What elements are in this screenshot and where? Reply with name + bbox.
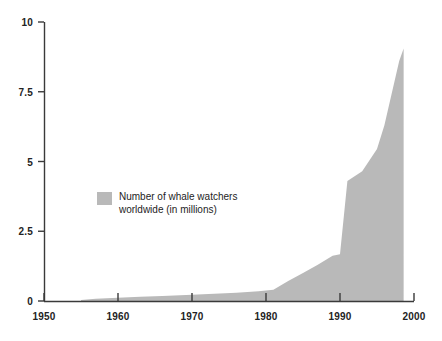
y-axis-tick-label: 2.5 [0,226,33,237]
legend-label: Number of whale watchers worldwide (in m… [119,191,237,216]
x-axis-tick-label: 1970 [180,311,203,322]
y-axis-tick-label: 7.5 [0,86,33,97]
x-axis-tick-label: 1960 [106,311,129,322]
x-axis-tick-label: 1980 [254,311,277,322]
x-axis-tick-label: 1990 [328,311,351,322]
y-axis-ticks [38,22,44,301]
y-axis-tick-label: 5 [0,156,33,167]
x-axis-tick-label: 2000 [402,311,425,322]
legend-color-swatch [97,192,112,205]
area-series-whale-watchers [81,49,404,302]
y-axis-tick-label: 10 [0,17,33,28]
chart-legend: Number of whale watchers worldwide (in m… [97,191,237,216]
chart-plot-area [0,0,442,341]
whale-watchers-area-chart: 02.557.510 195019601970198019902000 Numb… [0,0,442,341]
y-axis-tick-label: 0 [0,296,33,307]
x-axis-tick-label: 1950 [32,311,55,322]
